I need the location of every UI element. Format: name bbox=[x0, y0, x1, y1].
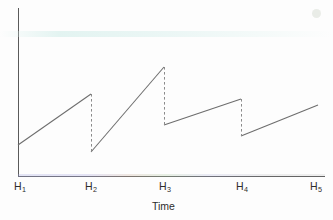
x-tick-label-h1: H1 bbox=[14, 181, 26, 192]
x-tick-label-h4: H4 bbox=[236, 181, 248, 192]
x-axis-title: Time bbox=[152, 201, 175, 212]
x-tick-label-h5: H5 bbox=[310, 181, 322, 192]
ramp-segment-1 bbox=[18, 94, 91, 145]
ramp-segment-2 bbox=[91, 67, 164, 152]
sawtooth-chart: H1 H2 H3 H4 H5 Time bbox=[0, 0, 333, 220]
ramp-segment-3 bbox=[164, 99, 241, 125]
x-tick-label-h3: H3 bbox=[159, 181, 171, 192]
x-tick-label-h2: H2 bbox=[85, 181, 97, 192]
ramp-segment-4 bbox=[241, 105, 318, 136]
